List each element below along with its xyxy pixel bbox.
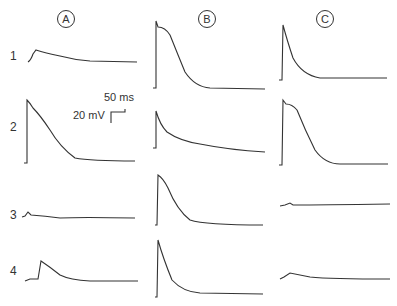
trace-a2 — [24, 100, 135, 163]
trace-a1 — [28, 50, 137, 62]
trace-b1 — [153, 21, 265, 89]
trace-a3 — [22, 212, 135, 218]
trace-b2 — [153, 111, 265, 152]
trace-c4 — [280, 273, 390, 279]
trace-c2 — [279, 100, 388, 165]
scale-bar — [111, 109, 125, 123]
trace-c1 — [279, 25, 387, 80]
trace-b4 — [155, 240, 263, 297]
trace-b3 — [155, 175, 263, 225]
trace-a4 — [25, 261, 138, 281]
traces — [0, 0, 397, 306]
trace-c3 — [280, 203, 390, 206]
